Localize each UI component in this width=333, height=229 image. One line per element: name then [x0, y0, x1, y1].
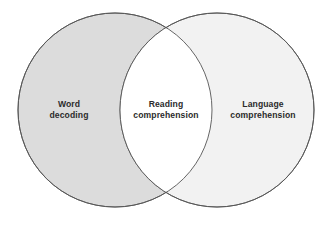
venn-diagram: Word decoding Reading comprehension Lang… — [0, 0, 333, 229]
venn-canvas — [0, 0, 333, 229]
